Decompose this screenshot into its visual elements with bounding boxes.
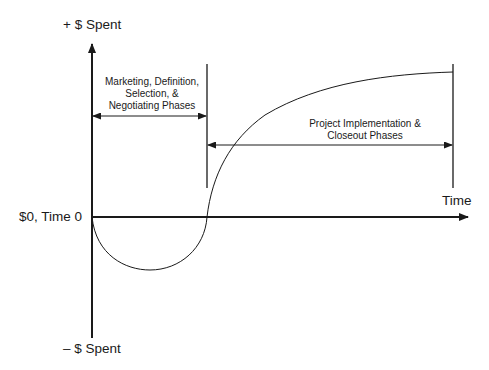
phase-1-label: Marketing, Definition, Selection, & Nego… <box>100 76 204 112</box>
origin-label: $0, Time 0 <box>19 209 82 224</box>
y-axis-bottom-label: – $ Spent <box>63 341 121 356</box>
y-axis-top-label: + $ Spent <box>63 17 121 32</box>
phase-2-label: Project Implementation & Closeout Phases <box>290 118 440 142</box>
cashflow-diagram <box>0 0 489 370</box>
x-axis-label: Time <box>442 193 472 208</box>
